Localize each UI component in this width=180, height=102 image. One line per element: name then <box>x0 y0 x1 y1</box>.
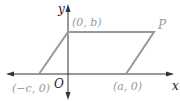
y-axis-label: y <box>57 2 65 16</box>
y-axis-arrow-down-icon <box>66 92 71 100</box>
vertex-label-p: P <box>157 18 167 32</box>
vertex-label-neg-c: (−c, 0) <box>12 82 50 95</box>
vertex-label-a: (a, 0) <box>113 80 142 93</box>
x-axis-label: x <box>172 79 179 93</box>
vertex-label-b: (0, b) <box>72 16 102 29</box>
x-axis-arrow-right-icon <box>166 72 174 77</box>
x-axis-arrow-left-icon <box>6 72 14 77</box>
y-axis-arrow-up-icon <box>66 4 71 12</box>
diagram-canvas: y x O (−c, 0) (0, b) P (a, 0) <box>0 0 180 102</box>
origin-label: O <box>54 77 64 91</box>
parallelogram <box>39 32 154 74</box>
